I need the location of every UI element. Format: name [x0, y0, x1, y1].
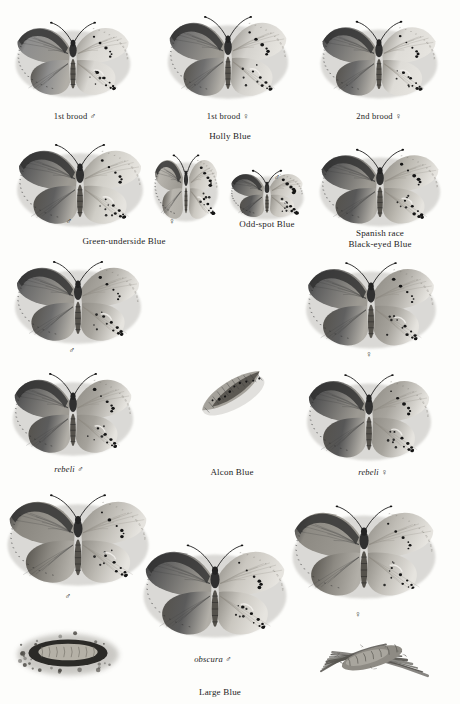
specimen-large-blue-pupa [314, 631, 430, 687]
specimen-alcon-blue-rebeli-female [303, 372, 435, 468]
butterfly-specimen-plate: 1st brood ♂1st brood ♀2nd brood ♀♂♀♂♂♀re… [0, 0, 460, 704]
group-label-holly-blue: Holly Blue [209, 131, 251, 142]
specimen-caption-alcon-blue-female: ♀ [366, 349, 373, 360]
group-label-odd-spot-blue: Odd-spot Blue [239, 219, 294, 230]
group-label-black-eyed-blue: Spanish race Black-eyed Blue [348, 228, 411, 251]
specimen-holly-blue-2nd-brood-female [317, 19, 441, 105]
specimen-caption-alcon-blue-rebeli-female: rebeli ♀ [358, 467, 388, 478]
specimen-caption-alcon-blue-rebeli-male: rebeli ♂ [54, 464, 84, 475]
specimen-alcon-blue-male [11, 259, 145, 351]
group-label-alcon-blue: Alcon Blue [210, 467, 253, 478]
specimen-alcon-blue-female [302, 260, 440, 356]
specimen-holly-blue-1st-brood-male [12, 20, 134, 104]
specimen-large-blue-obscura-male [139, 542, 291, 646]
specimen-caption-large-blue-female: ♀ [355, 609, 362, 620]
specimen-alcon-blue-folded-wing [189, 360, 275, 426]
specimen-odd-spot-blue-male [228, 169, 306, 223]
specimen-caption-green-underside-blue-male: ♂ [66, 216, 73, 227]
specimen-green-underside-blue-male [13, 142, 147, 234]
specimen-large-blue-larva [13, 626, 123, 678]
specimen-caption-holly-blue-1st-brood-male: 1st brood ♂ [54, 111, 97, 122]
specimen-green-underside-blue-female [152, 153, 220, 227]
specimen-caption-holly-blue-1st-brood-female: 1st brood ♀ [207, 111, 250, 122]
specimen-caption-odd-spot-blue-male: ♂ [274, 172, 281, 183]
specimen-caption-holly-blue-2nd-brood-female: 2nd brood ♀ [356, 111, 401, 122]
group-label-green-underside-blue: Green-underside Blue [82, 236, 165, 247]
group-label-large-blue: Large Blue [199, 687, 241, 698]
specimen-large-blue-male [3, 492, 153, 594]
specimen-holly-blue-1st-brood-female [164, 14, 292, 106]
specimen-caption-alcon-blue-male: ♂ [69, 345, 76, 356]
specimen-alcon-blue-rebeli-male [9, 371, 137, 463]
specimen-caption-green-underside-blue-female: ♀ [169, 216, 176, 227]
specimen-black-eyed-blue [316, 147, 444, 233]
specimen-large-blue-female [288, 503, 440, 607]
specimen-caption-large-blue-obscura-male: obscura ♂ [194, 654, 232, 665]
specimen-caption-large-blue-male: ♂ [65, 591, 72, 602]
